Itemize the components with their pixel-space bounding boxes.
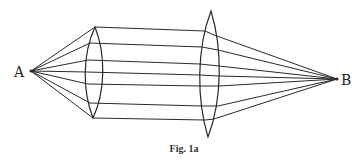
light-ray: [90, 43, 202, 47]
light-ray: [31, 71, 87, 72]
lens-diagram: A B Fig. 1a: [0, 0, 364, 164]
light-ray: [95, 27, 205, 31]
point-a-dot: [29, 69, 32, 72]
optics-drawing: [0, 0, 364, 164]
rays-to-b: [214, 35, 337, 119]
light-ray: [31, 71, 90, 103]
light-ray: [202, 47, 218, 50]
light-ray: [90, 103, 202, 106]
light-ray: [88, 60, 200, 64]
light-ray: [205, 31, 214, 35]
point-b-label: B: [341, 73, 351, 87]
figure-caption: Fig. 1a: [0, 143, 364, 154]
light-ray: [88, 84, 200, 86]
point-a-label: A: [14, 65, 24, 79]
light-ray: [218, 50, 337, 79]
light-ray: [200, 75, 219, 76]
light-ray: [205, 119, 214, 120]
light-ray: [200, 64, 219, 66]
light-ray: [218, 79, 337, 106]
light-ray: [87, 72, 200, 75]
point-b-dot: [335, 77, 338, 80]
light-ray: [93, 118, 205, 120]
light-ray: [31, 43, 90, 71]
